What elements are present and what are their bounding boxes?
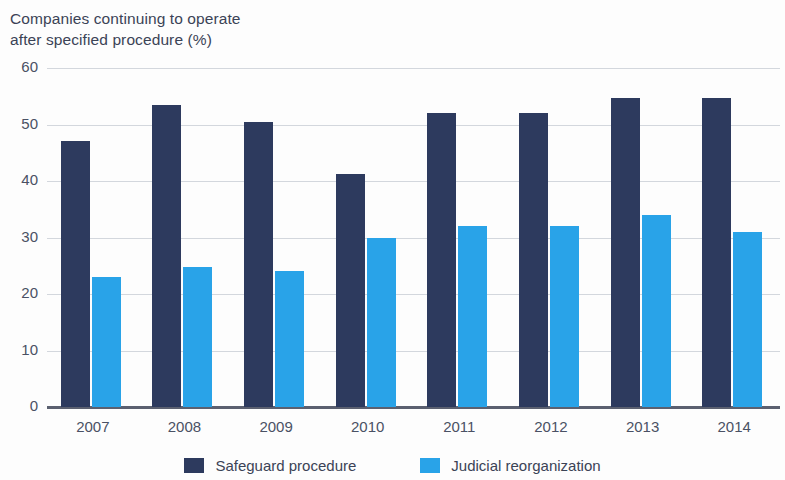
- legend-swatch-icon: [184, 458, 204, 473]
- bar-group: [152, 68, 212, 407]
- y-tick-label: 0: [4, 397, 38, 414]
- bar: [336, 174, 365, 407]
- bar: [61, 141, 90, 407]
- x-tick-label: 2013: [603, 418, 683, 435]
- y-tick-label: 50: [4, 115, 38, 132]
- bar-group: [611, 68, 671, 407]
- legend-swatch-icon: [420, 458, 440, 473]
- y-tick-label: 10: [4, 341, 38, 358]
- bar-group: [427, 68, 487, 407]
- legend-item[interactable]: Judicial reorganization: [420, 457, 600, 474]
- x-tick-label: 2009: [236, 418, 316, 435]
- y-tick-label: 20: [4, 284, 38, 301]
- legend-label: Judicial reorganization: [451, 457, 600, 474]
- bar: [152, 105, 181, 407]
- bar-group: [519, 68, 579, 407]
- bar: [92, 277, 121, 407]
- bar: [642, 215, 671, 407]
- bar-group: [61, 68, 121, 407]
- bar: [244, 122, 273, 407]
- bar: [427, 113, 456, 407]
- bar: [367, 238, 396, 408]
- x-tick-label: 2008: [144, 418, 224, 435]
- bar: [275, 271, 304, 407]
- legend-label: Safeguard procedure: [215, 457, 356, 474]
- y-tick-label: 30: [4, 228, 38, 245]
- legend-item[interactable]: Safeguard procedure: [184, 457, 356, 474]
- x-tick-label: 2011: [419, 418, 499, 435]
- x-tick-label: 2007: [53, 418, 133, 435]
- bar: [733, 232, 762, 407]
- bar-group: [244, 68, 304, 407]
- bar: [519, 113, 548, 407]
- x-tick-label: 2010: [328, 418, 408, 435]
- x-tick-label: 2012: [511, 418, 591, 435]
- bar: [611, 98, 640, 407]
- bar-group: [336, 68, 396, 407]
- chart-title: Companies continuing to operate after sp…: [10, 8, 241, 50]
- bar-chart: Companies continuing to operate after sp…: [0, 0, 785, 480]
- bar: [550, 226, 579, 407]
- bar-group: [702, 68, 762, 407]
- x-tick-label: 2014: [694, 418, 774, 435]
- bar: [458, 226, 487, 407]
- bars-layer: [47, 68, 780, 407]
- y-tick-label: 40: [4, 171, 38, 188]
- y-tick-label: 60: [4, 58, 38, 75]
- chart-legend: Safeguard procedureJudicial reorganizati…: [0, 457, 785, 474]
- bar: [183, 267, 212, 407]
- bar: [702, 98, 731, 407]
- x-axis-tick-labels: 20072008200920102011201220132014: [47, 418, 780, 444]
